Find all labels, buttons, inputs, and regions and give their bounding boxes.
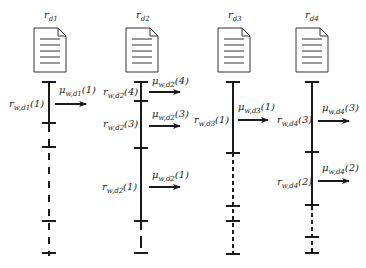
mu-label: μw,d3(1) [238,102,275,115]
rate-label: rw,d4(2) [277,177,312,190]
mu-label: μw,d2(1) [152,170,189,183]
timeline-d4 [305,82,319,253]
column-title-d3: rd3 [228,10,242,23]
document-icon [126,28,158,72]
mu-label: μw,d2(3) [152,109,189,122]
rate-label: rw,d2(4) [103,87,138,100]
rate-label: rw,d2(3) [103,119,138,132]
document-icon [218,28,250,72]
timeline-diagram [0,0,366,268]
document-icon [296,28,328,72]
rate-label: rw,d3(1) [194,115,229,128]
rate-label: rw,d2(1) [102,182,137,195]
column-title-d1: rd1 [44,10,58,23]
column-d4 [296,28,349,253]
column-d2 [126,28,180,253]
column-title-d2: rd2 [136,10,150,23]
rate-label: rw,d4(3) [277,115,312,128]
timeline-d2 [134,82,148,253]
column-d3 [218,28,268,254]
column-d1 [34,28,86,256]
mu-label: μw,d4(2) [322,163,359,176]
mu-label: μw,d1(1) [59,85,96,98]
rate-label: rw,d1(1) [9,99,44,112]
mu-label: μw,d2(4) [152,76,189,89]
column-title-d4: rd4 [305,10,319,23]
document-icon [34,28,66,72]
mu-label: μw,d4(3) [322,103,359,116]
